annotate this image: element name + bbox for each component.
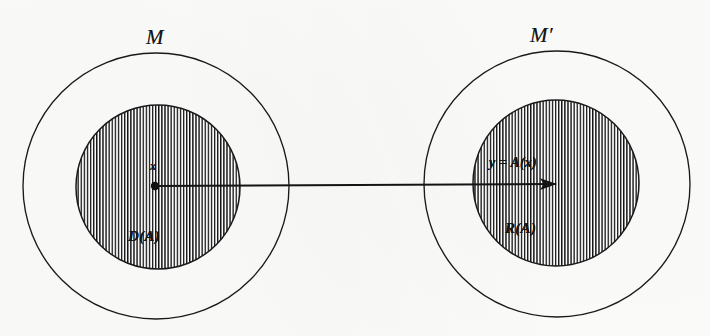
left-set-label-M: M bbox=[146, 27, 164, 48]
left-region-label-domain: D(A) bbox=[128, 229, 160, 244]
diagram-svg bbox=[0, 0, 710, 336]
right-inner-circle-range bbox=[473, 100, 639, 266]
right-region-label-range: R(A) bbox=[505, 221, 536, 236]
point-label-x: x bbox=[150, 160, 156, 172]
figure-canvas: M x D(A) M′ y = A(x) R(A) bbox=[0, 0, 710, 336]
right-set-label-M-prime: M′ bbox=[530, 25, 553, 46]
map-label-y-equals-A-of-x: y = A(x) bbox=[489, 156, 537, 170]
